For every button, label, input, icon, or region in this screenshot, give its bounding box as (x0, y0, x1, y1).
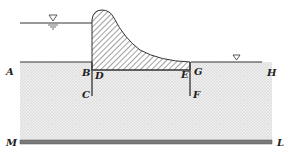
soil-layer (20, 62, 272, 142)
label-F: F (192, 89, 201, 100)
label-B: B (81, 67, 90, 78)
label-A: A (5, 66, 14, 77)
label-M: M (5, 137, 18, 148)
dam-body (92, 10, 190, 70)
label-D: D (94, 70, 104, 81)
water-level-triangle-icon (233, 55, 240, 60)
label-H: H (266, 67, 277, 78)
label-L: L (276, 137, 284, 148)
seepage-diagram: A B D C E G F H M L (0, 0, 295, 154)
label-C: C (82, 89, 90, 100)
label-G: G (194, 66, 203, 77)
impervious-layer (20, 140, 272, 144)
label-E: E (180, 69, 189, 80)
water-level-triangle-icon (48, 15, 58, 29)
